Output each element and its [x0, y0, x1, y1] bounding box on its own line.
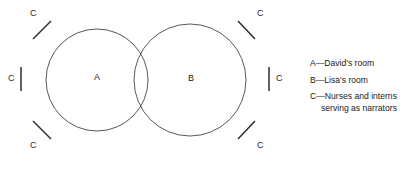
region-label-b: B [188, 74, 194, 83]
legend-item-b: B—Lisa's room [310, 75, 414, 87]
narrator-label-bottom-right: C [257, 141, 264, 150]
narrator-label-right-middle: C [276, 74, 283, 83]
legend-item-a-text: A—David's room [310, 58, 374, 68]
narrator-tick-bottom-left [33, 121, 51, 139]
legend-item-c-text: C—Nurses and interns [310, 91, 397, 101]
narrator-label-top-right: C [257, 9, 264, 18]
legend: A—David's room B—Lisa's room C—Nurses an… [310, 58, 414, 114]
narrator-label-top-left: C [30, 9, 37, 18]
legend-item-c-continuation: serving as narrators [310, 103, 414, 115]
narrator-tick-top-right [238, 21, 255, 39]
venn-diagram: A B C C C C C C A—David's room B—Lisa's … [0, 0, 416, 170]
legend-item-a: A—David's room [310, 58, 414, 70]
narrator-label-bottom-left: C [30, 141, 37, 150]
narrator-tick-top-left [33, 21, 51, 39]
narrator-label-left-middle: C [8, 74, 15, 83]
narrator-tick-bottom-right [238, 121, 255, 139]
legend-item-b-text: B—Lisa's room [310, 75, 368, 85]
legend-item-c: C—Nurses and interns serving as narrator… [310, 91, 414, 114]
region-label-a: A [94, 73, 100, 82]
